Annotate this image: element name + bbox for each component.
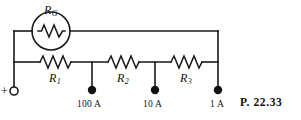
node-load-1a	[214, 86, 222, 94]
resistor-r2-label-subscript: 2	[124, 77, 128, 86]
resistor-r2-zigzag	[108, 56, 139, 68]
figure-caption: P. 22.33	[240, 97, 282, 109]
resistor-r1-zigzag	[40, 56, 71, 68]
resistor-r3-zigzag	[171, 56, 202, 68]
load-current-label-1a: 1 A	[210, 100, 224, 110]
resistor-r3-label-subscript: 3	[187, 77, 191, 86]
generator-label: RG	[44, 4, 57, 18]
node-load-100a	[88, 86, 96, 94]
terminal-positive-circle	[10, 87, 18, 95]
node-load-10a	[151, 86, 159, 94]
generator-label-subscript: G	[51, 9, 57, 18]
resistor-r2-label: R2	[117, 72, 129, 86]
generator-resistor-zigzag	[38, 25, 65, 37]
resistor-r1-label-subscript: 1	[56, 77, 60, 86]
load-current-label-10a: 10 A	[143, 100, 162, 110]
resistor-r1-label: R1	[49, 72, 61, 86]
circuit-diagram-figure: RG R1 R2 R3 100 A 10 A 1 A + P. 22.33	[0, 0, 301, 120]
load-current-label-100a: 100 A	[77, 100, 101, 110]
resistor-r3-label: R3	[180, 72, 192, 86]
terminal-positive-sign: +	[1, 85, 8, 97]
